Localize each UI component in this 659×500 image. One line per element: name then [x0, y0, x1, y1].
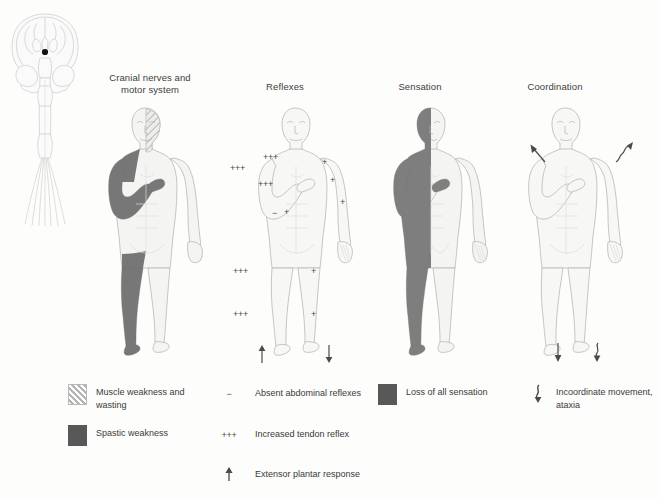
legend-label-extensor-plantar: Extensor plantar response: [255, 466, 360, 481]
reflex-mark-supinator-left: +++: [258, 180, 273, 189]
reflex-mark-triceps-right: +: [330, 176, 335, 185]
panel-title-sensation-line1: Sensation: [360, 81, 480, 93]
legend-label-spastic-weakness-line1: Spastic weakness: [96, 427, 168, 440]
legend-item-increased-tendon: +++ Increased tendon reflex: [212, 426, 349, 441]
legend-swatch-solid-spastic: [68, 425, 87, 446]
legend-label-absent-abdominal-line1: Absent abdominal reflexes: [255, 387, 361, 400]
legend-symbol-up-arrow: [212, 466, 246, 482]
panel-title-coordination-line1: Coordination: [495, 81, 615, 93]
panel-title-cranial: Cranial nerves and motor system: [90, 72, 210, 96]
plantar-response-arrow-right: [322, 344, 336, 364]
legend-item-incoordinate-movement: Incoordinate movement, ataxia: [530, 384, 653, 411]
legend-swatch-solid-sensation: [378, 384, 397, 405]
reflex-mark-abdominal-right: +: [284, 208, 289, 217]
lesion-marker-dot: [42, 49, 48, 55]
legend-item-extensor-plantar: Extensor plantar response: [212, 466, 360, 482]
legend-label-incoordinate-movement-line2: ataxia: [556, 399, 653, 412]
legend-label-loss-sensation: Loss of all sensation: [406, 384, 488, 399]
legend-item-loss-sensation: Loss of all sensation: [378, 384, 488, 405]
panel-title-coordination: Coordination: [495, 81, 615, 93]
legend-label-incoordinate-movement-line1: Incoordinate movement,: [556, 386, 653, 399]
legend-label-absent-abdominal: Absent abdominal reflexes: [255, 385, 361, 400]
panel-title-reflexes-line1: Reflexes: [225, 81, 345, 93]
reflex-mark-ankle-left: +++: [233, 310, 248, 319]
legend-label-muscle-weakness-line1: Muscle weakness and: [96, 386, 185, 399]
reflex-mark-biceps-right: +: [322, 158, 327, 167]
panel-title-sensation: Sensation: [360, 81, 480, 93]
brain-spinal-cord-illustration: [6, 8, 84, 236]
legend-symbol-minus: −: [212, 385, 246, 400]
legend-label-spastic-weakness: Spastic weakness: [96, 425, 168, 440]
legend-item-spastic-weakness: Spastic weakness: [68, 425, 168, 446]
legend-label-increased-tendon-line1: Increased tendon reflex: [255, 428, 349, 441]
panel-title-reflexes: Reflexes: [225, 81, 345, 93]
panel-title-cranial-line1: Cranial nerves and: [90, 72, 210, 84]
reflex-mark-biceps-left: +++: [263, 153, 278, 162]
coordination-arrow-foot-left: [551, 342, 565, 364]
body-figure-reflexes: [250, 104, 354, 356]
legend-label-extensor-plantar-line1: Extensor plantar response: [255, 468, 360, 481]
reflex-mark-wrist-right: +: [340, 198, 345, 207]
panel-title-cranial-line2: motor system: [90, 84, 210, 96]
coordination-arrow-foot-right-ataxic: [590, 342, 604, 364]
legend-label-muscle-weakness-line2: wasting: [96, 399, 185, 412]
body-figure-sensation: [385, 104, 489, 356]
coordination-arrow-shoulder-right-ataxic: [614, 140, 636, 164]
legend-label-incoordinate-movement: Incoordinate movement, ataxia: [556, 384, 653, 411]
legend-label-muscle-weakness: Muscle weakness and wasting: [96, 384, 185, 411]
legend-symbol-squiggle-arrow: [530, 384, 546, 404]
legend-symbol-plus-plus-plus: +++: [212, 426, 246, 441]
reflex-mark-ankle-right: +: [311, 310, 316, 319]
reflex-mark-abdominal-left: −: [272, 209, 277, 218]
legend-item-absent-abdominal: − Absent abdominal reflexes: [212, 385, 361, 400]
reflex-mark-knee-right: +: [311, 267, 316, 276]
legend-swatch-hatched: [68, 384, 87, 405]
reflex-mark-knee-left: +++: [233, 267, 248, 276]
plantar-response-arrow-left: [255, 344, 269, 364]
coordination-arrow-shoulder-left: [528, 142, 548, 164]
reflex-mark-brachioradialis-left: +++: [230, 164, 245, 173]
neurology-examination-figure: Cranial nerves and motor system Reflexes…: [0, 0, 659, 500]
body-figure-cranial-motor: [100, 104, 204, 356]
legend-label-loss-sensation-line1: Loss of all sensation: [406, 386, 488, 399]
legend: Muscle weakness and wasting Spastic weak…: [0, 372, 659, 500]
legend-label-increased-tendon: Increased tendon reflex: [255, 426, 349, 441]
legend-item-muscle-weakness: Muscle weakness and wasting: [68, 384, 185, 411]
